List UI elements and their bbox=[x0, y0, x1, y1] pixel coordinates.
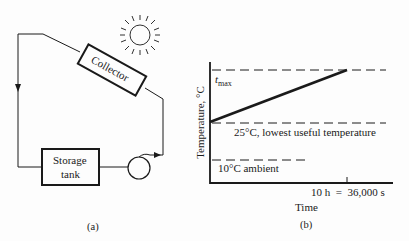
caption-b: (b) bbox=[300, 220, 312, 231]
flow-arrow-right-icon bbox=[154, 152, 161, 158]
reference-lines bbox=[212, 70, 386, 160]
useful-temp-label: 25°C, lowest useful temperature bbox=[234, 127, 376, 138]
ambient-label: 10°C ambient bbox=[218, 163, 279, 174]
flow-arrow-down-icon bbox=[15, 84, 21, 92]
tank-label-storage: Storage bbox=[53, 155, 87, 166]
tank-label-tank: tank bbox=[61, 169, 80, 180]
sun-icon bbox=[120, 15, 160, 55]
pump-icon bbox=[128, 157, 150, 179]
caption-a: (a) bbox=[87, 222, 99, 233]
y-axis-label: Temperature, °C bbox=[195, 73, 206, 173]
tmax-label: tmax bbox=[215, 74, 232, 88]
tmax-subscript: max bbox=[218, 79, 232, 88]
x-tick-label: 10 h = 36,000 s bbox=[311, 187, 385, 198]
x-axis-label: Time bbox=[295, 202, 318, 213]
